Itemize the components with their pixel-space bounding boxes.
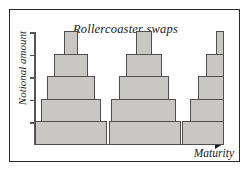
bar-step: [182, 121, 224, 145]
bar-step: [111, 99, 176, 123]
plot-area: Notional amount Maturity: [10, 10, 241, 163]
y-axis-tick: [30, 100, 35, 102]
bar-step: [206, 54, 224, 78]
bar-step: [190, 99, 224, 123]
bar-step: [216, 31, 224, 55]
bar-step: [126, 54, 162, 78]
bar-step: [119, 76, 169, 100]
x-axis-label: Maturity: [194, 147, 234, 159]
y-axis-tick: [30, 55, 35, 57]
chart-screenshot: Rollercoaster swaps Notional amount Matu…: [0, 0, 249, 171]
y-axis-tick: [30, 77, 35, 79]
bar-step: [198, 76, 224, 100]
bar-step: [54, 54, 89, 78]
chart-frame: Rollercoaster swaps Notional amount Matu…: [9, 9, 240, 162]
bar-step: [35, 121, 107, 145]
bar-step: [136, 31, 152, 55]
y-axis-tick: [30, 32, 35, 34]
bar-step: [64, 31, 78, 55]
bar-step: [41, 99, 101, 123]
y-axis-label: Notional amount: [16, 20, 28, 116]
bar-step: [109, 121, 181, 145]
bar-step: [47, 76, 95, 100]
